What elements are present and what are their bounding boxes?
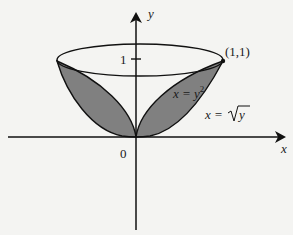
y-axis-label: y bbox=[146, 6, 154, 21]
svg-text:y: y bbox=[237, 107, 245, 122]
shaded-region-left bbox=[57, 61, 136, 137]
y-tick-label-1: 1 bbox=[120, 52, 127, 67]
point-1-1 bbox=[221, 59, 225, 63]
curve-label-sqrt-y: x = y bbox=[204, 106, 250, 122]
origin-label: 0 bbox=[120, 146, 127, 161]
svg-text:x =: x = bbox=[204, 107, 223, 122]
x-axis-label: x bbox=[280, 141, 287, 156]
solid-top-ellipse bbox=[57, 44, 223, 76]
curve-label-y-squared: x = y2 bbox=[172, 84, 204, 101]
diagram-canvas: y x 0 1 (1,1) x = y2 x = y bbox=[0, 0, 293, 235]
point-label: (1,1) bbox=[225, 44, 250, 59]
